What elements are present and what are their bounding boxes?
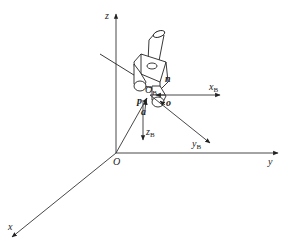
xB-label: xB: [208, 81, 218, 94]
o-label: o: [166, 97, 171, 108]
base-axes: [12, 14, 278, 237]
z-axis-label: z: [104, 10, 109, 21]
yB-axis: [150, 95, 210, 143]
n-label: n: [165, 73, 171, 84]
x-axis-label: x: [7, 221, 13, 232]
frame-diagram: z y x O xB yB zB OB n o a p: [0, 0, 288, 251]
y-axis-label: y: [267, 156, 273, 167]
origin-label: O: [113, 156, 120, 167]
a-label: a: [141, 106, 146, 117]
zB-label: zB: [145, 126, 155, 139]
x-axis: [12, 153, 116, 237]
yB-label: yB: [191, 138, 201, 151]
p-label: p: [136, 95, 142, 106]
